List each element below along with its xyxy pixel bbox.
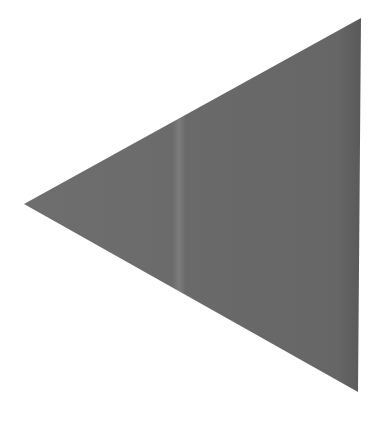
left-pointing-triangle-icon xyxy=(24,18,361,392)
triangle-figure xyxy=(0,0,374,424)
